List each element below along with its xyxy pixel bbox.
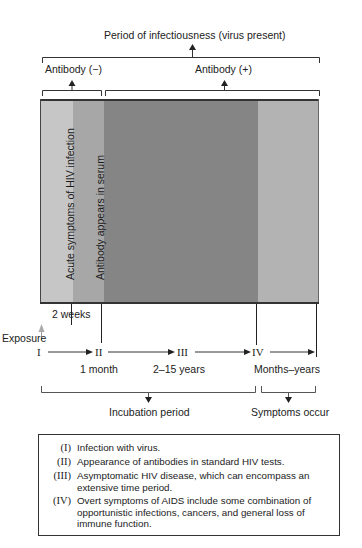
band-asymptomatic	[104, 101, 258, 303]
years-label: 2–15 years	[153, 364, 205, 375]
antibody-serum-label: Antibody appears in serum	[95, 155, 106, 280]
acute-symptoms-label: Acute symptoms of HIV infection	[65, 128, 76, 280]
infectiousness-bracket	[43, 47, 320, 63]
stage-IV: IV	[252, 346, 264, 358]
arrow-right-icon	[168, 349, 175, 355]
incubation-bracket	[42, 386, 256, 393]
box-bottom-border	[40, 302, 319, 304]
antibody-negative-label: Antibody (−)	[45, 64, 102, 75]
legend-num: (I)	[39, 442, 71, 454]
arrow-right-icon	[308, 349, 315, 355]
legend-text: Overt symptoms of AIDS include some comb…	[77, 495, 332, 530]
stage-I: I	[37, 346, 41, 358]
antibody-positive-label: Antibody (+)	[195, 64, 252, 75]
exposure-label: Exposure	[2, 333, 46, 344]
arrow-up-icon	[69, 80, 76, 86]
legend-num: (II)	[39, 456, 71, 468]
two-weeks-label: 2 weeks	[52, 309, 91, 320]
legend-num: (III)	[39, 470, 71, 482]
band-aids	[258, 101, 319, 303]
arrow-up-icon	[189, 44, 196, 50]
stage-II: II	[95, 346, 102, 358]
legend-num: (IV)	[39, 495, 71, 507]
arrow-down-icon	[285, 397, 292, 403]
symptoms-label: Symptoms occur	[251, 407, 329, 418]
box-right-border	[318, 99, 319, 304]
legend-text: Asymptomatic HIV disease, which can enco…	[77, 470, 332, 493]
legend-text: Appearance of antibodies in standard HIV…	[77, 456, 332, 468]
stage-III: III	[177, 346, 188, 358]
antibody-brackets	[43, 84, 320, 96]
exposure-arrow-icon	[39, 324, 45, 332]
symptoms-bracket	[262, 386, 316, 393]
arrow-right-icon	[244, 349, 251, 355]
incubation-label: Incubation period	[109, 407, 190, 418]
box-left-border	[40, 99, 41, 304]
arrow-down-icon	[145, 397, 152, 403]
legend-text: Infection with virus.	[77, 442, 332, 454]
arrow-right-icon	[86, 349, 93, 355]
arrow-up-icon	[221, 80, 228, 86]
one-month-label: 1 month	[80, 364, 118, 375]
months-years-label: Months–years	[254, 364, 320, 375]
legend-box: (I) Infection with virus. (II) Appearanc…	[38, 434, 340, 536]
